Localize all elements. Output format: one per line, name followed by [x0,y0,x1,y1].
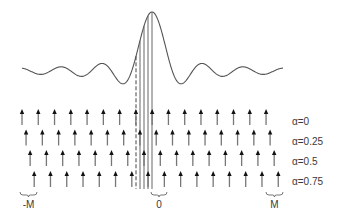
up-arrow-icon [235,130,239,146]
up-arrow-icon [264,109,268,125]
up-arrow-icon [154,130,158,146]
up-arrow-icon [207,150,211,166]
arrow-row-3 [32,171,280,187]
up-arrow-icon [28,150,32,166]
axis-label-minus-m: -M [23,199,35,210]
up-arrow-icon [126,150,130,166]
up-arrow-icon [52,109,56,125]
up-arrow-icon [20,109,24,125]
up-arrow-icon [239,150,243,166]
up-arrow-icon [48,171,52,187]
up-arrow-icon [272,150,276,166]
up-arrow-icon [187,130,191,146]
up-arrow-icon [244,171,248,187]
up-arrow-icon [178,171,182,187]
up-arrow-icon [85,109,89,125]
up-arrow-icon [117,109,121,125]
row-label-alpha-025: α=0.25 [292,136,324,147]
up-arrow-icon [276,171,280,187]
up-arrow-icon [231,109,235,125]
up-arrow-icon [81,171,85,187]
up-arrow-icon [24,130,28,146]
row-label-alpha-0: α=0 [292,116,310,127]
up-arrow-icon [60,150,64,166]
up-arrow-icon [105,130,109,146]
up-arrow-icon [195,171,199,187]
up-arrow-icon [162,171,166,187]
up-arrow-icon [121,130,125,146]
arrow-rows [20,109,281,187]
up-arrow-icon [183,109,187,125]
up-arrow-icon [113,171,117,187]
underbrace-icon [266,192,283,197]
up-arrow-icon [44,150,48,166]
up-arrow-icon [158,150,162,166]
axis-label-zero: 0 [156,199,162,210]
row-label-alpha-05: α=0.5 [292,156,318,167]
up-arrow-icon [93,150,97,166]
up-arrow-icon [166,109,170,125]
up-arrow-icon [101,109,105,125]
up-arrow-icon [134,109,138,125]
up-arrow-icon [109,150,113,166]
up-arrow-icon [36,109,40,125]
up-arrow-icon [77,150,81,166]
underbrace-icon [20,192,37,197]
diagram-svg: α=0 α=0.25 α=0.5 α=0.75 -M 0 M [0,0,337,219]
up-arrow-icon [227,171,231,187]
up-arrow-icon [69,109,73,125]
up-arrow-icon [211,171,215,187]
axis-label-m: M [270,199,278,210]
up-arrow-icon [260,171,264,187]
up-arrow-icon [32,171,36,187]
up-arrow-icon [252,130,256,146]
up-arrow-icon [150,109,154,125]
up-arrow-icon [73,130,77,146]
up-arrow-icon [223,150,227,166]
up-arrow-icon [40,130,44,146]
up-arrow-icon [56,130,60,146]
up-arrow-icon [256,150,260,166]
up-arrow-icon [199,109,203,125]
up-arrow-icon [142,150,146,166]
up-arrow-icon [248,109,252,125]
up-arrow-icon [203,130,207,146]
sinc-sampling-diagram: α=0 α=0.25 α=0.5 α=0.75 -M 0 M [0,0,337,219]
up-arrow-icon [170,130,174,146]
row-label-alpha-075: α=0.75 [292,176,324,187]
up-arrow-icon [219,130,223,146]
up-arrow-icon [215,109,219,125]
up-arrow-icon [268,130,272,146]
up-arrow-icon [130,171,134,187]
up-arrow-icon [65,171,69,187]
up-arrow-icon [89,130,93,146]
up-arrow-icon [191,150,195,166]
up-arrow-icon [97,171,101,187]
up-arrow-icon [138,130,142,146]
up-arrow-icon [146,171,150,187]
braces [20,192,283,197]
up-arrow-icon [174,150,178,166]
underbrace-icon [151,192,167,197]
